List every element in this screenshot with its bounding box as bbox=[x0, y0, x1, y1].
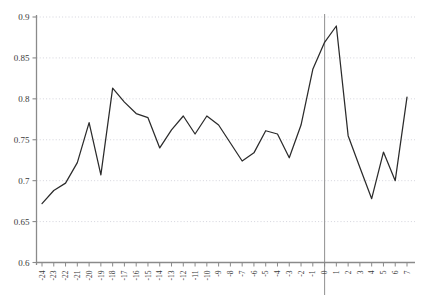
svg-text:-2: -2 bbox=[297, 270, 306, 276]
svg-text:3: 3 bbox=[356, 270, 365, 274]
svg-text:2: 2 bbox=[344, 270, 353, 274]
svg-text:-4: -4 bbox=[273, 270, 282, 276]
svg-text:-19: -19 bbox=[97, 270, 106, 280]
svg-text:0.65: 0.65 bbox=[14, 217, 30, 227]
svg-text:-8: -8 bbox=[226, 270, 235, 276]
svg-text:-16: -16 bbox=[132, 270, 141, 280]
svg-text:0.6: 0.6 bbox=[18, 258, 30, 268]
svg-text:7: 7 bbox=[403, 270, 412, 274]
svg-text:0: 0 bbox=[320, 270, 329, 274]
svg-text:-22: -22 bbox=[61, 270, 70, 280]
svg-text:-18: -18 bbox=[108, 270, 117, 280]
svg-text:-21: -21 bbox=[73, 270, 82, 280]
svg-text:-14: -14 bbox=[155, 270, 164, 280]
svg-text:-17: -17 bbox=[120, 270, 129, 280]
chart-background bbox=[0, 0, 443, 299]
svg-text:0.75: 0.75 bbox=[14, 135, 30, 145]
svg-text:0.8: 0.8 bbox=[18, 94, 30, 104]
svg-text:-15: -15 bbox=[144, 270, 153, 280]
svg-text:-23: -23 bbox=[49, 270, 58, 280]
svg-text:-10: -10 bbox=[203, 270, 212, 280]
svg-text:-5: -5 bbox=[261, 270, 270, 276]
svg-text:-9: -9 bbox=[214, 270, 223, 276]
svg-text:6: 6 bbox=[391, 270, 400, 274]
svg-text:-20: -20 bbox=[85, 270, 94, 280]
svg-text:-6: -6 bbox=[250, 270, 259, 276]
svg-text:0.7: 0.7 bbox=[18, 176, 30, 186]
svg-text:-7: -7 bbox=[238, 270, 247, 276]
svg-text:0.9: 0.9 bbox=[18, 12, 30, 22]
svg-text:-1: -1 bbox=[309, 270, 318, 276]
svg-text:-3: -3 bbox=[285, 270, 294, 276]
line-chart: 0.60.650.70.750.80.850.9 -24-23-22-21-20… bbox=[0, 0, 443, 299]
svg-text:4: 4 bbox=[367, 270, 376, 274]
svg-text:-13: -13 bbox=[167, 270, 176, 280]
svg-text:5: 5 bbox=[379, 270, 388, 274]
svg-text:-24: -24 bbox=[38, 270, 47, 280]
svg-text:0.85: 0.85 bbox=[14, 53, 30, 63]
svg-text:1: 1 bbox=[332, 270, 341, 274]
svg-text:-12: -12 bbox=[179, 270, 188, 280]
svg-text:-11: -11 bbox=[191, 270, 200, 280]
chart-container: 0.60.650.70.750.80.850.9 -24-23-22-21-20… bbox=[0, 0, 443, 299]
